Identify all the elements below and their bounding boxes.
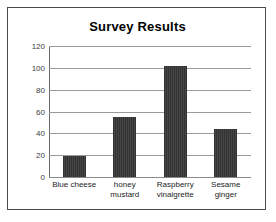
gridline-120	[49, 46, 251, 47]
plot-area: 020406080100120 Blue cheesehoney mustard…	[49, 46, 251, 177]
gridline-100	[49, 68, 251, 69]
gridline-80	[49, 90, 251, 91]
y-tick-label-40: 40	[36, 129, 45, 138]
chart-figure: Survey Results 020406080100120 Blue chee…	[7, 7, 266, 210]
y-tick-label-100: 100	[32, 63, 45, 72]
y-tick-label-120: 120	[32, 42, 45, 51]
chart-title: Survey Results	[8, 19, 267, 34]
gridline-0	[49, 177, 251, 178]
y-tick-label-0: 0	[41, 173, 45, 182]
x-tick-label: Blue cheese	[49, 180, 100, 190]
bar	[63, 156, 86, 177]
y-tick-label-60: 60	[36, 107, 45, 116]
bar	[113, 117, 136, 177]
x-tick-label: honey mustard	[100, 180, 151, 200]
y-tick-label-80: 80	[36, 85, 45, 94]
x-tick-label: Sesame ginger	[201, 180, 252, 200]
gridline-60	[49, 112, 251, 113]
bar	[164, 66, 187, 177]
y-tick-label-20: 20	[36, 151, 45, 160]
x-tick-label: Raspberry vinaigrette	[150, 180, 201, 200]
bar	[214, 129, 237, 177]
